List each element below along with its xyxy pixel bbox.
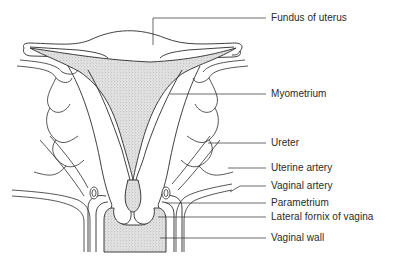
label-uterine-artery: Uterine artery [271,162,332,174]
label-vaginal-wall: Vaginal wall [271,232,324,244]
left-vaginal-artery [12,190,90,252]
label-parametrium: Parametrium [271,197,329,209]
cervical-canal [125,180,141,212]
label-vaginal-artery: Vaginal artery [271,180,333,192]
label-ureter: Ureter [271,137,299,149]
uterus-diagram [0,0,394,267]
leader-vaginal-artery [230,186,266,192]
left-ureter [40,140,84,196]
label-myometrium: Myometrium [271,88,327,100]
left-uterine-vessel [17,66,84,175]
right-ureter [178,140,220,190]
uterine-cavity [30,48,236,180]
label-fundus: Fundus of uterus [271,12,347,24]
right-uterine-vessel [181,66,248,175]
fundus-outline [23,31,242,55]
label-lateral-fornix: Lateral fornix of vagina [271,211,373,223]
